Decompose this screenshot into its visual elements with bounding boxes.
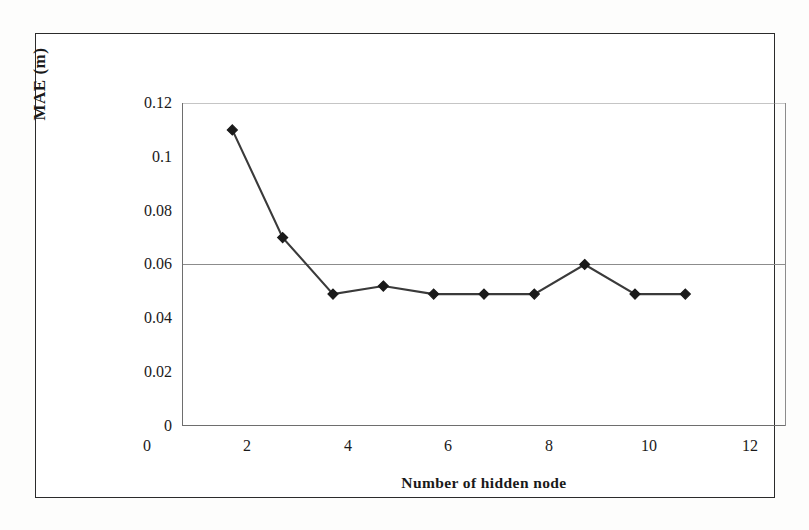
- x-axis-title: Number of hidden node: [182, 474, 786, 492]
- data-series-mae: [227, 125, 690, 299]
- x-tick-label: 2: [227, 438, 267, 454]
- x-tick-label: 6: [428, 438, 468, 454]
- gridlines: [182, 103, 786, 265]
- series-line: [232, 130, 685, 294]
- x-tick-label: 12: [730, 438, 770, 454]
- series-markers: [227, 125, 690, 299]
- x-tick-label: 8: [529, 438, 569, 454]
- x-tick-label: 0: [127, 438, 167, 454]
- x-tick-label: 4: [328, 438, 368, 454]
- figure-frame: MAE (m) 0.12 0.1 0.08 0.06 0.04 0.02 0 0…: [35, 33, 775, 498]
- x-tick-label: 10: [629, 438, 669, 454]
- line-chart-svg: [182, 103, 786, 426]
- plot-area: [182, 103, 786, 426]
